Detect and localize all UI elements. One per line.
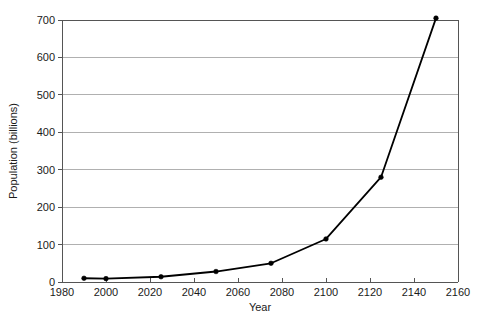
x-tick-label: 2080 <box>270 286 294 298</box>
x-tick-label: 2140 <box>402 286 426 298</box>
population-growth-chart: 0100200300400500600700198020002020204020… <box>0 0 495 322</box>
y-tick-label: 100 <box>37 239 55 251</box>
y-tick-label: 600 <box>37 51 55 63</box>
data-point-marker <box>434 16 439 21</box>
y-tick-label: 200 <box>37 201 55 213</box>
y-tick-label: 300 <box>37 164 55 176</box>
data-point-marker <box>379 175 384 180</box>
x-tick-label: 2120 <box>358 286 382 298</box>
data-point-marker <box>269 261 274 266</box>
y-tick-label: 400 <box>37 126 55 138</box>
data-point-marker <box>214 269 219 274</box>
y-tick-label: 700 <box>37 14 55 26</box>
y-axis-title: Population (billions) <box>7 103 19 199</box>
x-tick-label: 2020 <box>138 286 162 298</box>
y-tick-label: 500 <box>37 89 55 101</box>
chart-canvas: 0100200300400500600700198020002020204020… <box>0 0 495 322</box>
x-tick-label: 2000 <box>94 286 118 298</box>
x-tick-label: 1980 <box>50 286 74 298</box>
x-tick-label: 2040 <box>182 286 206 298</box>
data-point-marker <box>82 276 87 281</box>
data-point-marker <box>159 274 164 279</box>
data-point-marker <box>324 237 329 242</box>
x-tick-label: 2160 <box>446 286 470 298</box>
x-tick-label: 2060 <box>226 286 250 298</box>
x-tick-label: 2100 <box>314 286 338 298</box>
data-point-marker <box>104 276 109 281</box>
x-axis-title: Year <box>249 301 272 313</box>
